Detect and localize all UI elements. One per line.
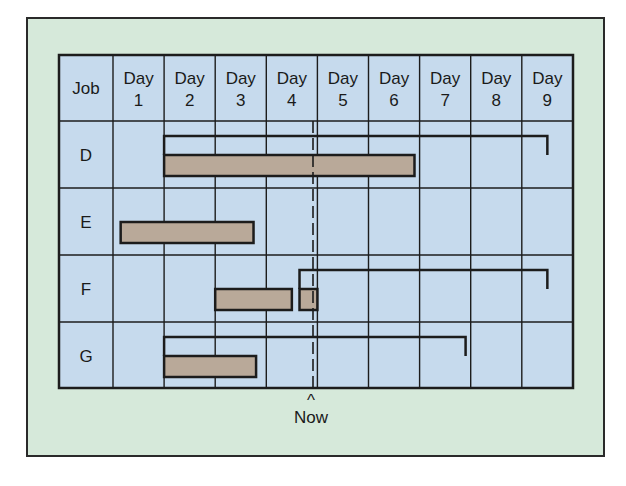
progress-bar-G-1 bbox=[164, 356, 256, 377]
header-day-3: Day bbox=[226, 69, 257, 88]
progress-bar-D-1 bbox=[164, 155, 414, 176]
job-label-F: F bbox=[81, 280, 91, 299]
progress-bar-E-1 bbox=[121, 222, 254, 243]
header-day-2: Day bbox=[175, 69, 206, 88]
header-day-7: Day bbox=[430, 69, 461, 88]
header-day-num-6: 6 bbox=[389, 91, 398, 110]
gantt-chart: Job Day1Day2Day3Day4Day5Day6Day7Day8Day9… bbox=[0, 0, 626, 486]
header-day-4: Day bbox=[277, 69, 308, 88]
header-day-num-1: 1 bbox=[134, 91, 143, 110]
header-day-1: Day bbox=[123, 69, 154, 88]
job-label-E: E bbox=[80, 213, 91, 232]
header-day-num-3: 3 bbox=[236, 91, 245, 110]
header-day-8: Day bbox=[481, 69, 512, 88]
header-job: Job bbox=[72, 79, 99, 98]
header-day-num-8: 8 bbox=[492, 91, 501, 110]
job-label-D: D bbox=[80, 146, 92, 165]
header-day-6: Day bbox=[379, 69, 410, 88]
job-label-G: G bbox=[79, 347, 92, 366]
header-day-num-9: 9 bbox=[543, 91, 552, 110]
now-label: Now bbox=[294, 408, 329, 427]
header-day-9: Day bbox=[532, 69, 563, 88]
header-day-num-5: 5 bbox=[338, 91, 347, 110]
header-day-5: Day bbox=[328, 69, 359, 88]
progress-bar-F-2 bbox=[300, 289, 318, 310]
progress-bar-F-1 bbox=[215, 289, 292, 310]
header-day-num-4: 4 bbox=[287, 91, 296, 110]
header-day-num-2: 2 bbox=[185, 91, 194, 110]
header-day-num-7: 7 bbox=[440, 91, 449, 110]
